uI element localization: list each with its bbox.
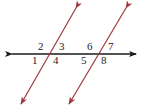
right-transversal-line <box>69 8 126 104</box>
angle-label-2: 2 <box>38 40 44 52</box>
angle-label-1: 1 <box>32 54 38 66</box>
angle-label-6: 6 <box>87 40 93 52</box>
angle-label-8: 8 <box>101 54 107 66</box>
angle-label-3: 3 <box>59 40 65 52</box>
left-transversal-line <box>21 8 76 104</box>
parallel-lines-transversal-diagram: 1 2 3 4 5 6 7 8 <box>0 0 144 111</box>
angle-label-7: 7 <box>108 40 114 52</box>
diagram-canvas: 1 2 3 4 5 6 7 8 <box>0 0 144 111</box>
angle-labels: 1 2 3 4 5 6 7 8 <box>32 40 114 66</box>
angle-label-5: 5 <box>81 54 87 66</box>
angle-label-4: 4 <box>53 54 59 66</box>
